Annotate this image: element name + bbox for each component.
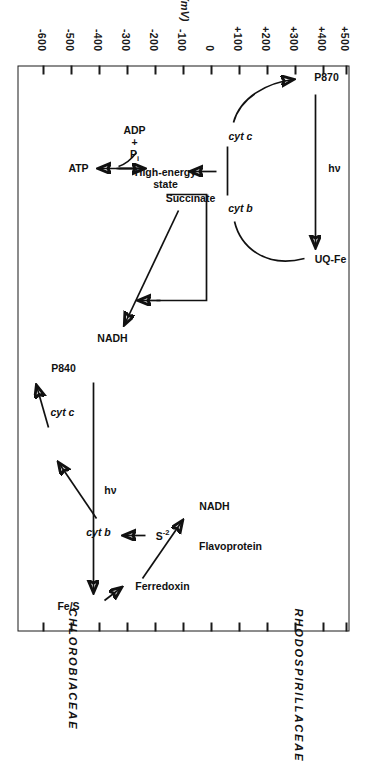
arrow-succinate-to-nadh — [124, 210, 178, 324]
arrow-cytc-to-p840 — [36, 385, 48, 427]
axis-tick-label: +100 — [231, 26, 243, 51]
node-cyt-c-rhodo: cyt c — [228, 130, 252, 141]
node-fe-s: Fe/S — [57, 600, 79, 611]
plot-frame: CHLOROBIACEAE RHODOSPIRILLACEAE Fe/S (lo… — [17, 65, 349, 631]
axis-tick-label: -100 — [175, 28, 187, 51]
axis-tick-label: -400 — [91, 28, 103, 51]
node-p870: P870 — [314, 71, 339, 82]
bracket-highenergy-to-nadh — [156, 194, 206, 300]
node-atp: ATP — [68, 162, 88, 173]
node-nadh-rhodospirillaceae: NADH — [97, 332, 127, 343]
node-succinate: Succinate — [165, 192, 215, 203]
axis-tick-label: -500 — [63, 28, 75, 51]
node-flavoprotein: Flavoprotein — [198, 540, 261, 551]
axis-tick-label: +300 — [287, 26, 299, 51]
axis-tick-label: +200 — [259, 26, 271, 51]
node-sulfide-charge: -2 — [162, 528, 169, 537]
node-adp-pi-label: ADP+Pi — [123, 123, 145, 159]
panel-title-rhodospirillaceae: RHODOSPIRILLACEAE — [292, 608, 304, 762]
axis-tick-label: -200 — [147, 28, 159, 51]
axis-tick-label: -600 — [35, 28, 47, 51]
axis-title-units: (mV) — [178, 0, 190, 21]
curve-cytc-to-p870 — [233, 79, 293, 122]
axis-tick-label: -300 — [119, 28, 131, 51]
axis-tick-label: +400 — [315, 26, 327, 51]
edge-label-photon-chlorobiaceae: hν — [104, 484, 116, 495]
node-sulfide: S-2 — [155, 529, 169, 542]
node-high-energy-state: High-energystate — [134, 166, 195, 190]
axis-tick-label: +500 — [338, 26, 350, 51]
node-cyt-b: cyt b — [86, 526, 111, 537]
node-cyt-b-rhodo: cyt b — [228, 202, 253, 213]
node-ferredoxin: Ferredoxin — [135, 580, 189, 591]
node-p840: P840 — [51, 362, 76, 373]
node-uq-fe: UQ-Fe — [314, 253, 346, 264]
diagram-connectors: Fe/S (long photon jump) --> NADH --> UQ-… — [18, 64, 350, 630]
node-sulfide-label: S — [155, 529, 162, 541]
curve-uqfe-to-cytb — [234, 221, 304, 260]
axis-tick-label: 0 — [203, 45, 215, 51]
node-high-energy-state-label: High-energystate — [134, 165, 195, 189]
node-adp-pi: ADP+Pi — [123, 124, 145, 162]
arrow-fes-to-ferredoxin — [104, 587, 121, 600]
edge-label-photon-rhodospirillaceae: hν — [328, 162, 340, 173]
axis-title: Em (mV) — [175, 0, 190, 21]
arrow-cytb-to-cytc — [58, 462, 96, 518]
node-nadh-chlorobiaceae: NADH — [199, 500, 229, 511]
node-cyt-c: cyt c — [50, 406, 74, 417]
